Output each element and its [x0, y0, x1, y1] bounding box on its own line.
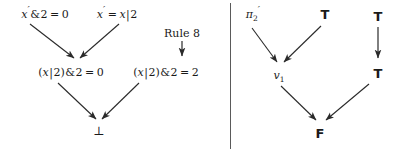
false-glyph: F: [315, 126, 324, 141]
v-subscript: 1: [280, 75, 285, 84]
panel-divider: [230, 3, 231, 149]
rhs-two: 2: [192, 66, 199, 79]
edge-prem-right-to-concl-left: [80, 24, 119, 58]
edge-t-side-to-f: [326, 84, 369, 120]
node-premise-left: x′&2=0: [21, 9, 69, 20]
edge-prem-left-to-concl-left: [30, 24, 74, 58]
rhs-var: x: [119, 8, 125, 21]
rhs-zero: 0: [97, 66, 104, 79]
node-conclusion-right: (x|2)&2=2: [133, 67, 199, 78]
rule-annotation-label: Rule 8: [164, 28, 200, 39]
bottom-symbol: ⊥: [93, 124, 104, 138]
node-true-side-top: T: [373, 10, 382, 23]
rhs-zero: 0: [62, 8, 69, 21]
edge-pi2-to-v1: [252, 28, 277, 62]
equals-sign: =: [83, 66, 97, 79]
node-conclusion-left: (x|2)&2=0: [38, 67, 104, 78]
true-glyph: T: [373, 9, 382, 24]
and-operator: &: [65, 66, 76, 79]
inner-var: x: [138, 66, 144, 79]
rhs-two: 2: [130, 8, 137, 21]
equals-sign: =: [105, 8, 119, 21]
and-operator: &: [30, 8, 41, 21]
edge-v1-to-f: [281, 86, 316, 120]
node-pi2-prime: π2′: [246, 9, 260, 20]
equals-sign: =: [178, 66, 192, 79]
true-glyph: T: [320, 7, 329, 22]
edge-concl-left-to-bottom: [58, 83, 96, 119]
rule-label-text: Rule 8: [164, 27, 200, 40]
proof-figure: x′&2=0 x′=x|2 (x|2)&2=0 (x|2)&2=2 ⊥ Rule…: [0, 0, 405, 152]
node-true-top: T: [320, 8, 329, 21]
and-operator: &: [160, 66, 171, 79]
node-bottom-contradiction: ⊥: [93, 125, 104, 137]
node-false-bottom: F: [315, 127, 324, 140]
edge-t-top-to-v1: [284, 26, 321, 62]
true-glyph: T: [373, 66, 382, 81]
prime-glyph: ′: [258, 4, 260, 15]
close-paren: ): [60, 66, 64, 79]
edge-concl-right-to-bottom: [102, 83, 139, 119]
node-premise-right: x′=x|2: [97, 9, 138, 20]
node-true-side-bottom: T: [373, 67, 382, 80]
inner-var: x: [43, 66, 49, 79]
close-paren: ): [155, 66, 159, 79]
node-v1: v1: [274, 70, 285, 81]
equals-sign: =: [48, 8, 62, 21]
pi-subscript: 2: [253, 14, 258, 23]
